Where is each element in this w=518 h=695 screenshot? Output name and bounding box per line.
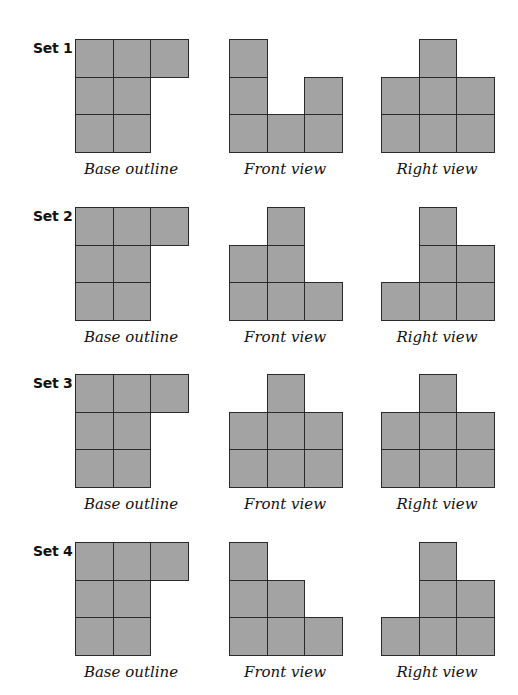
front-view-cell [229,580,268,619]
front-view-cell [229,282,268,321]
base-cell [150,374,189,413]
right-caption: Right view [362,328,512,346]
front-view-cell [304,449,343,488]
right-view-cell [456,449,495,488]
base-cell [75,114,114,153]
right-view-cell [419,617,458,656]
front-view-cell [229,412,268,451]
base-cell [113,282,152,321]
base-cell [75,207,114,246]
front-view-cell [267,245,306,284]
front-view-cell [229,245,268,284]
base-cell [113,580,152,619]
front-view-cell [267,449,306,488]
base-cell [75,412,114,451]
front-view-cell [304,412,343,451]
front-view-cell [267,207,306,246]
right-view-cell [456,282,495,321]
front-view-cell [229,114,268,153]
front-view-cell [304,617,343,656]
right-view-cell [419,282,458,321]
right-view-cell [456,114,495,153]
base-cell [113,77,152,116]
front-caption: Front view [210,160,360,178]
base-cell [113,114,152,153]
base-cell [113,374,152,413]
right-view-cell [381,412,420,451]
set-label: Set 3 [33,375,72,391]
set-label: Set 1 [33,40,72,56]
base-caption: Base outline [56,160,206,178]
base-cell [113,449,152,488]
base-cell [75,580,114,619]
base-cell [75,617,114,656]
right-view-cell [419,449,458,488]
front-view-cell [267,412,306,451]
front-view-cell [229,77,268,116]
base-cell [75,374,114,413]
base-cell [113,245,152,284]
right-view-cell [381,617,420,656]
right-view-cell [456,580,495,619]
base-cell [113,39,152,78]
right-view-cell [419,77,458,116]
front-view-cell [229,617,268,656]
right-view-cell [419,245,458,284]
right-view-cell [419,114,458,153]
front-caption: Front view [210,663,360,681]
right-view-cell [381,282,420,321]
right-caption: Right view [362,663,512,681]
front-view-cell [229,542,268,581]
right-view-cell [381,449,420,488]
base-caption: Base outline [56,495,206,513]
right-view-cell [456,245,495,284]
front-view-cell [267,617,306,656]
front-view-cell [267,282,306,321]
base-cell [75,449,114,488]
right-view-cell [456,77,495,116]
right-view-cell [419,207,458,246]
set-label: Set 2 [33,208,72,224]
base-cell [150,207,189,246]
base-cell [113,617,152,656]
base-cell [75,39,114,78]
front-view-cell [229,449,268,488]
right-view-cell [419,412,458,451]
right-view-cell [381,114,420,153]
right-view-cell [419,542,458,581]
right-view-cell [381,77,420,116]
right-view-cell [419,580,458,619]
base-cell [113,542,152,581]
front-view-cell [304,77,343,116]
right-view-cell [456,412,495,451]
base-cell [75,77,114,116]
front-view-cell [304,282,343,321]
front-caption: Front view [210,495,360,513]
right-caption: Right view [362,160,512,178]
front-view-cell [267,580,306,619]
base-cell [75,542,114,581]
base-cell [75,245,114,284]
right-caption: Right view [362,495,512,513]
base-caption: Base outline [56,663,206,681]
front-view-cell [267,374,306,413]
base-cell [113,412,152,451]
base-cell [150,39,189,78]
base-cell [113,207,152,246]
base-cell [75,282,114,321]
right-view-cell [456,617,495,656]
front-view-cell [267,114,306,153]
base-cell [150,542,189,581]
right-view-cell [419,39,458,78]
right-view-cell [419,374,458,413]
set-label: Set 4 [33,543,72,559]
front-view-cell [229,39,268,78]
front-view-cell [304,114,343,153]
base-caption: Base outline [56,328,206,346]
front-caption: Front view [210,328,360,346]
